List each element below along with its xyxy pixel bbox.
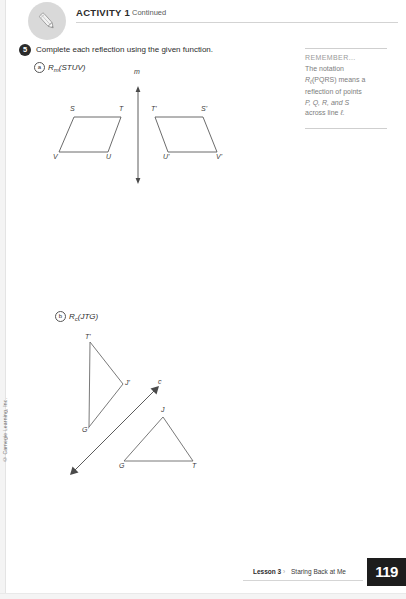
preimage-parallelogram-stuv <box>59 117 121 152</box>
page-number: 119 <box>367 558 406 586</box>
figure-a-vertex-t: T <box>119 105 123 112</box>
remember-heading: REMEMBER... <box>305 49 387 64</box>
figure-a-vertex-t-prime: T' <box>151 105 157 112</box>
remember-body: The notation Rℓ(PQRS) means a reflection… <box>305 64 387 123</box>
image-parallelogram-tsvu <box>155 117 217 152</box>
figure-b-vertex-g-prime: G' <box>82 426 89 433</box>
part-b-notation: bRc(JTG) <box>55 311 98 322</box>
preimage-triangle-gjt <box>124 417 193 461</box>
remember-line-5: across line <box>305 109 340 116</box>
remember-bottom-rule <box>305 128 387 129</box>
question-prompt: Complete each reflection using the given… <box>36 45 213 54</box>
figure-triangle-reflection: c T' J' G' J G T <box>50 325 240 490</box>
figure-a-vertex-u-prime: U' <box>163 153 169 160</box>
page-bottom-edge <box>0 593 406 599</box>
figure-a-vertex-s-prime: S' <box>201 105 207 112</box>
footer-separator-icon: › <box>283 568 285 575</box>
activity-continued-label: Continued <box>132 8 166 17</box>
header-divider <box>76 22 398 23</box>
figure-b-line-label: c <box>158 378 162 385</box>
remember-line-name: ℓ. <box>340 109 344 116</box>
figure-a-vertex-s: S <box>70 105 75 112</box>
page-footer: Lesson 3 › Staring Back at Me 119 <box>0 556 406 588</box>
figure-b-vertex-t: T <box>192 462 196 469</box>
part-b-notation-args: (JTG) <box>78 312 98 321</box>
remember-callout: REMEMBER... The notation Rℓ(PQRS) means … <box>305 48 387 129</box>
footer-divider <box>243 580 363 581</box>
remember-line-1: The notation <box>305 65 344 72</box>
footer-lesson-label: Lesson 3 <box>253 568 281 575</box>
line-m-arrow-top <box>136 86 141 92</box>
figure-parallelogram-reflection: m S T U V T' S' V' U' <box>30 68 280 188</box>
page-left-edge <box>0 0 6 599</box>
footer-lesson-title: Staring Back at Me <box>291 568 346 575</box>
pencil-icon <box>28 2 66 40</box>
figure-b-vertex-g: G <box>119 462 124 469</box>
figure-a-vertex-v: V <box>53 153 58 160</box>
remember-line-2: (PQRS) means a <box>312 76 365 83</box>
image-triangle-tjg-prime <box>89 342 123 427</box>
page-header: ACTIVITY 1 Continued <box>0 0 406 40</box>
figure-b-vertex-j: J <box>161 406 165 413</box>
copyright-notice: © Carnegie Learning, Inc. <box>2 398 12 462</box>
figure-b-vertex-j-prime: J' <box>125 379 130 386</box>
figure-a-vertex-u: U <box>106 153 111 160</box>
figure-a-vertex-v-prime: V' <box>216 153 222 160</box>
figure-b-vertex-t-prime: T' <box>85 333 91 340</box>
textbook-page: ACTIVITY 1 Continued 5 Complete each ref… <box>0 0 406 599</box>
line-m-arrow-bottom <box>136 178 141 184</box>
question-number-badge: 5 <box>19 44 31 56</box>
remember-line-3: reflection of points <box>305 88 362 95</box>
part-b-marker: b <box>55 311 66 322</box>
figure-a-line-label: m <box>134 68 140 75</box>
activity-title: ACTIVITY 1 <box>76 7 130 18</box>
remember-line-4: P, Q, R, and S <box>305 99 349 106</box>
